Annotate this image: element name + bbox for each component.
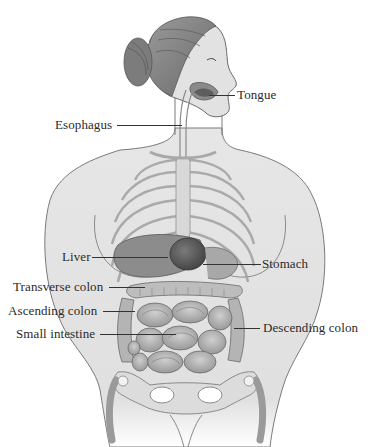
label-liver: Liver [62, 250, 91, 264]
anatomy-drawing [0, 0, 370, 447]
sternum [176, 158, 190, 238]
label-stomach: Stomach [262, 257, 308, 271]
label-transverse-colon: Transverse colon [13, 280, 103, 294]
stomach-leader-line [203, 264, 261, 265]
label-small-intestine: Small intestine [16, 327, 95, 341]
label-ascending-colon: Ascending colon [8, 304, 97, 318]
liver-leader-line [92, 257, 168, 258]
ascending-colon-leader-line [103, 311, 135, 312]
esophagus-leader-line [117, 125, 182, 126]
digestive-system-illustration: Tongue Esophagus Liver Stomach Transvers… [0, 0, 370, 447]
small-intestine-leader-line [100, 334, 176, 335]
descending-colon-leader-line [234, 328, 260, 329]
tongue-leader-line [209, 95, 235, 96]
transverse-colon-leader-line [109, 287, 145, 288]
stomach-shape [170, 238, 206, 270]
label-descending-colon: Descending colon [263, 321, 358, 335]
label-esophagus: Esophagus [55, 118, 112, 132]
label-tongue: Tongue [237, 88, 276, 102]
hair-bun [124, 38, 152, 86]
